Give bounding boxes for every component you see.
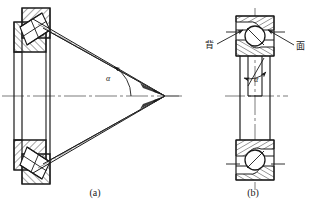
caption-a: (a) <box>89 187 100 199</box>
caption-b: (b) <box>247 187 259 199</box>
technical-drawing-canvas: α (a) <box>0 0 309 212</box>
label-back: 背 <box>205 39 214 50</box>
label-face: 面 <box>296 41 305 51</box>
bearing-contact-angle-figure: α (a) <box>0 0 309 212</box>
